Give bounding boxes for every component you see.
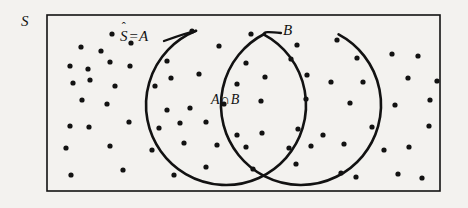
sample-point-dot [177,120,182,125]
sample-point-dot [434,78,439,83]
sample-point-dot [288,56,293,61]
sample-point-dot [395,171,400,176]
venn-diagram-figure: S Sˆ=A B A∩B [0,0,468,208]
sample-point-dot [107,59,112,64]
sample-point-dot [389,51,394,56]
sample-point-dot [328,79,333,84]
sample-point-dot [98,48,103,53]
sample-point-dot [85,66,90,71]
sample-point-dot [126,119,131,124]
sample-point-dot [360,79,365,84]
sample-point-dot [120,167,125,172]
sample-point-dot [320,132,325,137]
set-a-circle [146,31,306,185]
sample-point-dot [164,58,169,63]
sample-point-dot [392,102,397,107]
sample-point-dot [214,142,219,147]
sample-point-dot [353,174,358,179]
sample-point-dot [354,55,359,60]
sample-point-dot [234,132,239,137]
sample-point-dot [243,144,248,149]
sample-point-dot [341,141,346,146]
sample-point-dot [78,44,83,49]
sample-points-group [63,28,439,180]
sample-point-dot [164,107,169,112]
sample-point-dot [149,147,154,152]
sample-point-dot [127,63,132,68]
sample-point-dot [262,74,267,79]
sample-point-dot [107,143,112,148]
sample-point-dot [258,98,263,103]
sample-point-dot [168,75,173,80]
sample-point-dot [156,125,161,130]
sample-space-label: S [21,14,29,29]
sample-point-dot [286,145,291,150]
intersection-right-letter: B [231,92,240,107]
set-a-label: Sˆ=A [120,29,148,44]
sample-point-dot [293,161,298,166]
sample-point-dot [104,101,109,106]
sample-point-dot [216,43,221,48]
sample-point-dot [86,124,91,129]
sample-point-dot [405,75,410,80]
intersection-left-letter: A [211,92,220,107]
sample-point-dot [70,80,75,85]
sample-point-dot [295,126,300,131]
sample-point-dot [294,42,299,47]
sample-point-dot [369,124,374,129]
set-a-letter: A [139,28,148,44]
sample-point-dot [203,119,208,124]
sample-point-dot [234,81,239,86]
sample-point-dot [196,71,201,76]
sample-point-dot [112,83,117,88]
sample-point-dot [303,96,308,101]
set-b-label: B [283,23,292,38]
sample-point-dot [243,60,248,65]
sample-point-dot [171,172,176,177]
intersection-symbol-icon: ∩ [220,92,231,107]
circumflex-accent-icon: ˆ [122,21,126,33]
sample-point-dot [347,100,352,105]
sample-point-dot [308,143,313,148]
sample-point-dot [334,37,339,42]
sample-point-dot [381,147,386,152]
sample-point-dot [427,97,432,102]
sample-point-dot [67,63,72,68]
sample-point-dot [68,172,73,177]
sample-point-dot [419,175,424,180]
sample-point-dot [63,145,68,150]
sample-point-dot [87,77,92,82]
sample-point-dot [67,123,72,128]
s-hat-glyph: Sˆ [120,29,128,44]
sample-point-dot [189,28,194,33]
equals-sign: = [128,28,139,44]
sample-point-dot [248,31,253,36]
sample-point-dot [109,31,114,36]
sample-point-dot [187,105,192,110]
sample-point-dot [304,72,309,77]
sample-point-dot [203,164,208,169]
sample-point-dot [152,83,157,88]
sample-point-dot [426,123,431,128]
sample-point-dot [259,130,264,135]
sample-point-dot [181,140,186,145]
intersection-label: A∩B [211,93,239,107]
sample-point-dot [79,97,84,102]
sample-point-dot [250,166,255,171]
sample-point-dot [415,53,420,58]
set-b-leader-line [264,32,281,34]
sample-point-dot [338,170,343,175]
sample-point-dot [406,144,411,149]
